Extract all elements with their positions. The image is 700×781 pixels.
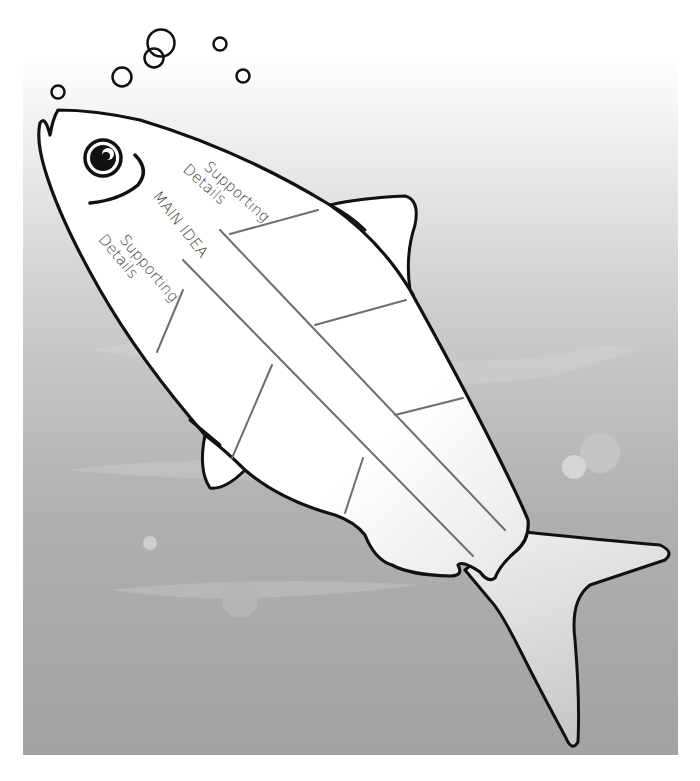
fish-diagram: Supporting Details MAIN IDEA Supporting … [0,0,700,781]
fish-eye [85,140,121,176]
bubble-icon [214,38,227,51]
